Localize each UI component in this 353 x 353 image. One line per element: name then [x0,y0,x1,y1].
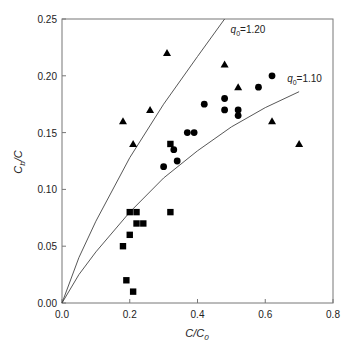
model-curves: q0=1.20q0=1.10 [62,19,322,303]
circle-marker [269,72,276,79]
scatter-chart: 0.00.20.40.60.80.000.050.100.150.200.25 … [0,0,353,353]
triangle-marker [268,117,276,124]
x-axis-label: C/C0 [185,327,209,342]
square-marker [133,209,139,215]
triangle-marker [119,117,127,124]
curve-label: q0=1.10 [287,73,322,86]
y-tick-label: 0.00 [38,298,58,309]
square-marker [123,277,129,283]
circle-marker [201,101,208,108]
circle-marker [235,112,242,119]
circle-marker [174,158,181,165]
triangle-marker [221,60,229,67]
y-axis-label: Cb/C [12,150,27,173]
x-tick-label: 0.2 [123,309,137,320]
circle-marker [255,84,262,91]
circle-marker [170,146,177,153]
x-tick-label: 0.8 [326,309,340,320]
triangle-marker [129,140,137,147]
y-tick-label: 0.15 [38,128,58,139]
square-marker [127,209,133,215]
x-tick-label: 0.6 [258,309,272,320]
y-tick-label: 0.20 [38,71,58,82]
y-tick-label: 0.10 [38,184,58,195]
triangle-marker [163,49,171,56]
curve-label: q0=1.20 [231,24,266,37]
plot-border [62,19,333,303]
circle-marker [221,106,228,113]
square-marker [167,141,173,147]
x-tick-label: 0.0 [55,309,69,320]
triangle-marker [295,140,303,147]
plot-frame [62,19,333,303]
square-marker [120,243,126,249]
square-marker [140,220,146,226]
square-marker [133,220,139,226]
y-tick-label: 0.25 [38,14,58,25]
circle-marker [221,95,228,102]
circle-marker [191,129,198,136]
triangle-marker [234,83,242,90]
curve-line [62,19,225,303]
axis-ticks: 0.00.20.40.60.80.000.050.100.150.200.25 [38,14,341,320]
square-marker [130,288,136,294]
circle-marker [184,129,191,136]
curve-line [62,92,299,303]
triangle-marker [146,106,154,113]
circle-marker [160,163,167,170]
square-marker [127,232,133,238]
x-tick-label: 0.4 [191,309,205,320]
data-points [119,49,303,295]
y-tick-label: 0.05 [38,241,58,252]
square-marker [167,209,173,215]
